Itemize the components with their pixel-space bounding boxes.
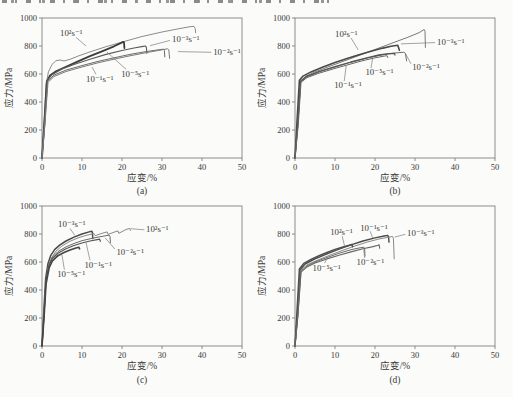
y-tick-label: 800 [24,229,37,239]
series-curve-10⁻³s⁻¹ [295,30,425,159]
y-axis-label: 应力/MPa [3,67,14,108]
subplot-caption: (c) [137,375,148,386]
x-tick-label: 40 [198,162,207,172]
strain-rate-label: 10⁻³s⁻¹ [58,219,86,229]
strain-rate-label: 10²s⁻¹ [335,29,358,39]
x-axis-label: 应变/% [127,360,158,371]
x-tick-label: 0 [293,350,297,360]
subplot-caption: (a) [137,186,148,197]
y-tick-label: 800 [277,229,290,239]
series-curve-10²s⁻¹ [295,45,399,158]
subplot-a: 0102030405002004006008001000应变/%应力/MPa(a… [0,6,256,198]
y-tick-label: 1000 [20,13,37,23]
annotation-leader [76,37,86,46]
y-axis-label: 应力/MPa [257,255,267,296]
y-tick-label: 200 [277,313,290,323]
annotation-leader [401,43,435,44]
strain-rate-label: 10²s⁻¹ [60,28,83,38]
y-tick-label: 400 [277,97,290,107]
strain-rate-label: 10⁻³s⁻¹ [172,34,200,44]
annotation-leader [86,242,90,260]
strain-rate-label: 10⁻¹s⁻¹ [360,223,388,233]
subplot-b: 0102030405002004006008001000应变/%应力/MPa(b… [257,6,513,198]
strain-rate-label: 10⁻²s⁻¹ [357,257,385,267]
x-tick-label: 10 [78,162,87,172]
y-tick-label: 200 [24,313,37,323]
y-tick-label: 600 [24,257,37,267]
subplot-d: 0102030405002004006008001000应变/%应力/MPa(d… [257,200,513,392]
y-tick-label: 0 [286,341,290,351]
x-tick-label: 40 [451,350,460,360]
series-curve-10²s⁻¹ [42,228,130,346]
y-axis-label: 应力/MPa [3,255,14,296]
x-tick-label: 50 [491,350,500,360]
x-tick-label: 20 [371,162,380,172]
chart-c: 0102030405002004006008001000应变/%应力/MPa(c… [0,200,256,392]
x-tick-label: 10 [331,350,340,360]
series-curve-10⁻⁵s⁻¹ [42,247,80,346]
subplot-caption: (d) [389,375,400,386]
y-axis-label: 应力/MPa [257,67,267,108]
strain-rate-label: 10⁻⁵s⁻¹ [57,269,85,279]
strain-rate-label: 10²s⁻¹ [146,224,169,234]
strain-rate-label: 10²s⁻¹ [330,227,353,237]
y-tick-label: 200 [24,125,37,135]
strain-rate-label: 10⁻⁵s⁻¹ [313,263,341,273]
annotation-leader [130,229,144,230]
x-tick-label: 30 [411,162,420,172]
annotation-leader [178,52,211,53]
x-axis-label: 应变/% [127,172,158,183]
x-tick-label: 20 [371,350,380,360]
annotation-leader [150,40,170,45]
cropped-text-fragment [2,0,334,3]
y-tick-label: 200 [277,125,290,135]
annotation-leader [351,38,358,50]
annotation-leader [344,66,346,81]
annotation-leader [62,255,64,270]
strain-rate-label: 10⁻³s⁻¹ [437,37,465,47]
strain-rate-label: 10⁻²s⁻¹ [213,47,241,57]
annotation-leader [395,234,406,237]
x-tick-label: 0 [293,162,297,172]
strain-rate-label: 10⁻²s⁻¹ [116,247,144,257]
series-curve-10⁻³s⁻¹ [295,237,394,347]
strain-rate-label: 10⁻¹s⁻¹ [86,74,114,84]
series-curve-10⁻¹s⁻¹ [42,49,165,158]
y-tick-label: 800 [277,41,290,51]
y-tick-label: 400 [24,285,37,295]
strain-rate-label: 10⁻¹s⁻¹ [84,260,112,270]
x-tick-label: 30 [411,350,420,360]
x-tick-label: 50 [238,350,247,360]
x-axis-label: 应变/% [380,172,411,183]
y-tick-label: 1000 [20,201,37,211]
x-tick-label: 0 [40,350,44,360]
y-tick-label: 600 [277,257,290,267]
y-tick-label: 800 [24,41,37,51]
strain-rate-label: 10⁻¹s⁻¹ [334,80,362,90]
x-tick-label: 40 [451,162,460,172]
strain-rate-label: 10⁻⁵s⁻¹ [365,67,393,77]
x-tick-label: 30 [158,162,167,172]
x-tick-label: 10 [78,350,87,360]
series-curve-10⁻²s⁻¹ [42,49,170,158]
chart-b: 0102030405002004006008001000应变/%应力/MPa(b… [257,6,513,198]
x-tick-label: 50 [491,162,500,172]
series-curve-10⁻²s⁻¹ [42,235,110,346]
subplot-c: 0102030405002004006008001000应变/%应力/MPa(c… [0,200,256,392]
strain-rate-label: 10⁻⁵s⁻¹ [121,69,149,79]
strain-rate-label: 10⁻²s⁻¹ [412,62,440,72]
chart-a: 0102030405002004006008001000应变/%应力/MPa(a… [0,6,256,198]
y-tick-label: 400 [24,97,37,107]
plot-frame [295,206,495,346]
x-tick-label: 0 [40,162,44,172]
chart-d: 0102030405002004006008001000应变/%应力/MPa(d… [257,200,513,392]
y-tick-label: 600 [24,69,37,79]
y-tick-label: 0 [286,153,290,163]
figure-page: 0102030405002004006008001000应变/%应力/MPa(a… [0,0,513,397]
x-tick-label: 20 [118,162,127,172]
subplot-caption: (b) [389,186,400,197]
x-tick-label: 40 [198,350,207,360]
plot-frame [295,18,495,158]
x-tick-label: 20 [118,350,127,360]
strain-rate-label: 10⁻³s⁻¹ [407,228,435,238]
